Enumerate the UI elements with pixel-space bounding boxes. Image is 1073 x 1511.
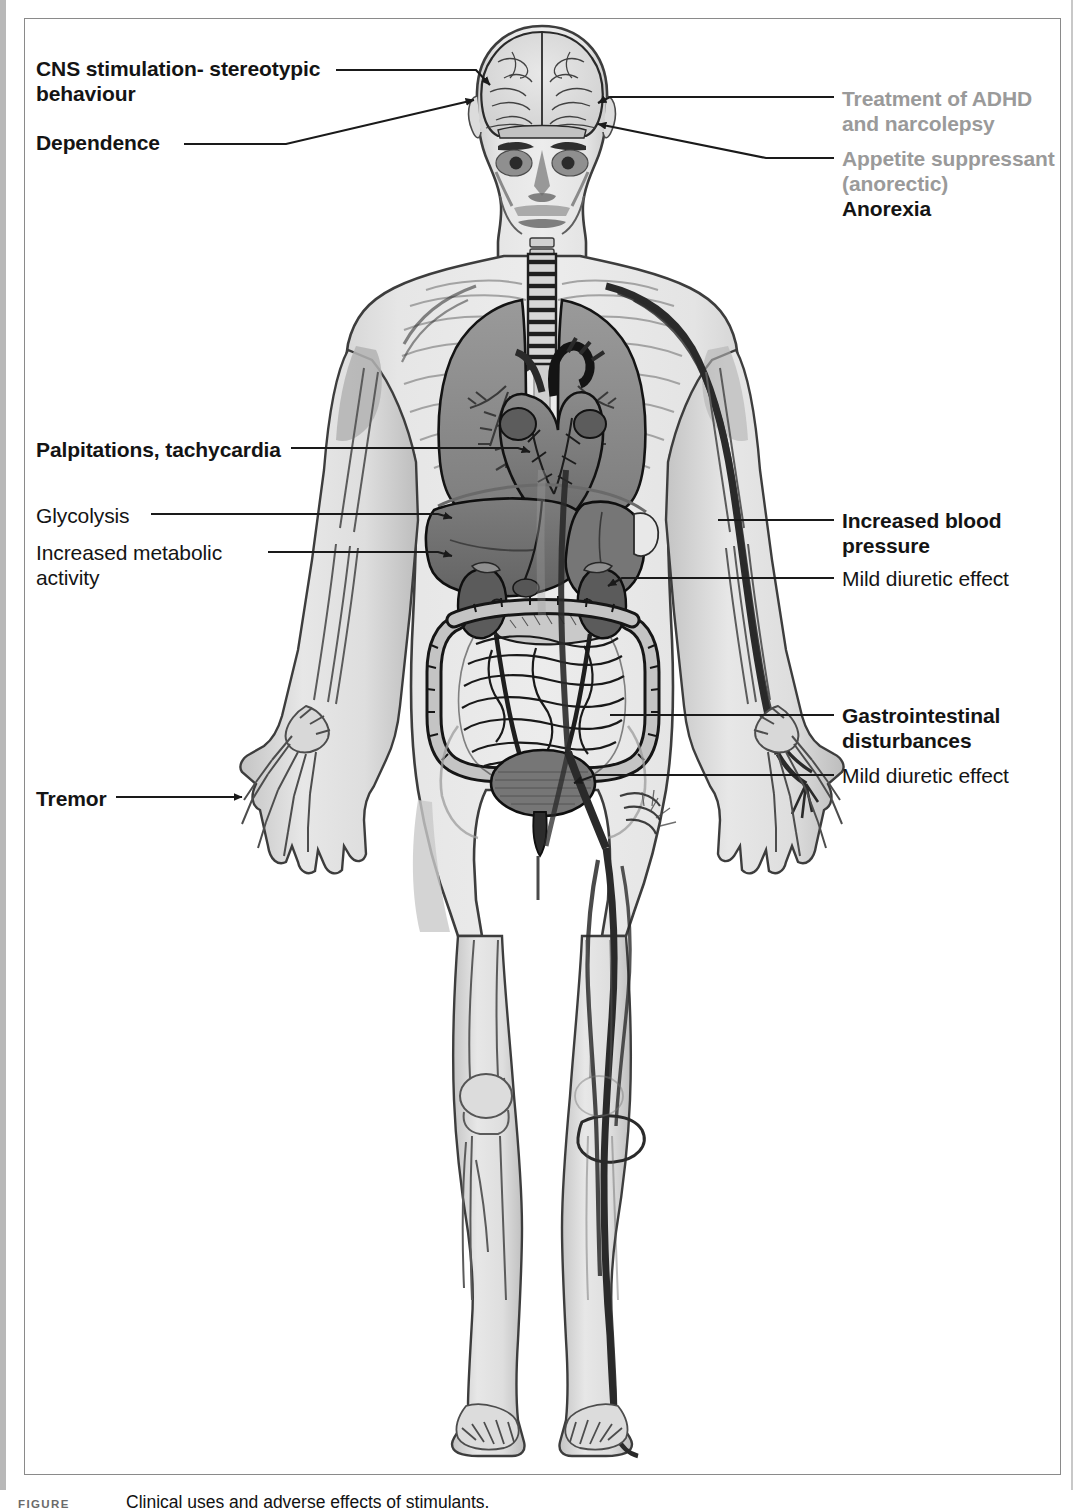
label-appetite-suppressant: Appetite suppressant (anorectic) xyxy=(842,146,1072,196)
label-palpitations-tachycardia: Palpitations, tachycardia xyxy=(36,437,336,462)
label-glycolysis: Glycolysis xyxy=(36,503,236,528)
label-cns-stimulation: CNS stimulation- stereotypic behaviour xyxy=(36,56,336,106)
figure-caption: FIGUREClinical uses and adverse effects … xyxy=(18,1492,1055,1511)
label-gastrointestinal-disturbances: Gastrointestinal disturbances xyxy=(842,703,1072,753)
leader-treatment-adhd xyxy=(598,97,834,103)
leader-cns-stimulation xyxy=(336,70,490,85)
figure-frame: CNS stimulation- stereotypic behaviour D… xyxy=(0,0,1073,1490)
label-dependence: Dependence xyxy=(36,130,236,155)
figure-caption-text: Clinical uses and adverse effects of sti… xyxy=(126,1492,489,1511)
label-mild-diuretic-effect-bladder: Mild diuretic effect xyxy=(842,763,1072,788)
figure-number: FIGURE xyxy=(18,1498,126,1510)
label-tremor: Tremor xyxy=(36,786,196,811)
leader-appetite-suppressant xyxy=(598,124,834,158)
label-increased-metabolic-activity: Increased metabolic activity xyxy=(36,540,286,590)
label-increased-blood-pressure: Increased blood pressure xyxy=(842,508,1072,558)
label-mild-diuretic-effect-kidney: Mild diuretic effect xyxy=(842,566,1072,591)
label-treatment-adhd-narcolepsy: Treatment of ADHD and narcolepsy xyxy=(842,86,1072,136)
label-anorexia: Anorexia xyxy=(842,196,1072,221)
